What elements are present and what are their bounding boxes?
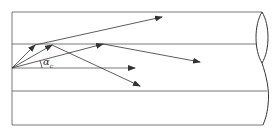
critical-angle-label: αc [43,56,53,69]
ray-3-reflected [103,44,200,62]
critical-angle-arc [40,61,42,68]
fiber-end-break [256,12,269,125]
ray-1-refracted [35,17,162,45]
fiber-diagram [0,0,278,134]
ray-2-reflected [52,45,140,86]
